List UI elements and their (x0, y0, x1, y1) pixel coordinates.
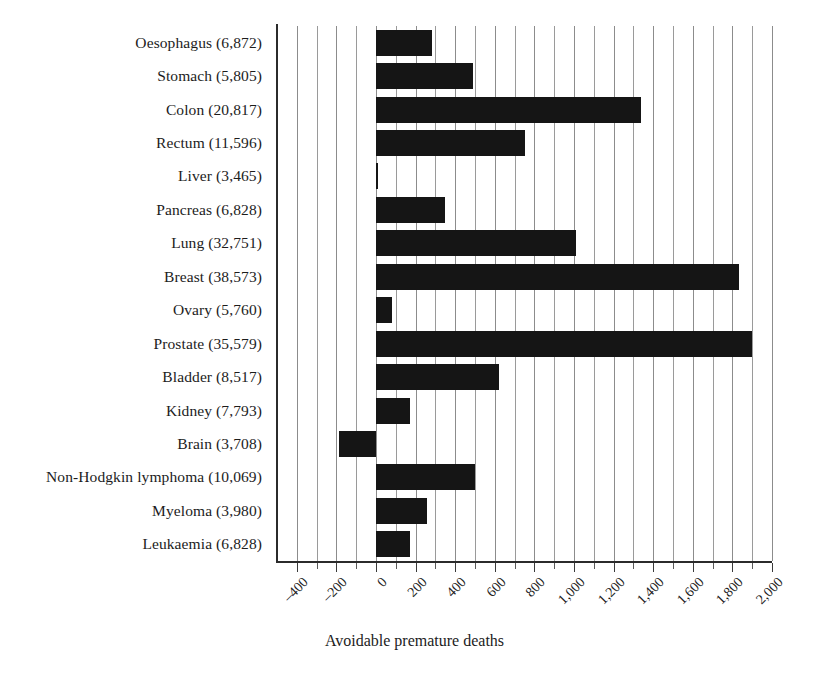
category-axis: Oesophagus (6,872)Stomach (5,805)Colon (… (0, 26, 270, 561)
bar (376, 498, 427, 524)
category-label: Leukaemia (6,828) (0, 536, 262, 552)
category-label: Bladder (8,517) (0, 369, 262, 385)
category-label: Rectum (11,596) (0, 135, 262, 151)
tick-mark (416, 563, 417, 572)
tick-mark (297, 563, 298, 572)
tick-mark (614, 563, 615, 572)
category-label: Non-Hodgkin lymphoma (10,069) (0, 469, 262, 485)
bar (376, 130, 525, 156)
tick-mark (376, 563, 377, 572)
tick-mark (653, 563, 654, 572)
bars-layer (277, 26, 772, 561)
bar (376, 30, 432, 56)
category-label: Liver (3,465) (0, 168, 262, 184)
bar (376, 264, 739, 290)
category-label: Lung (32,751) (0, 235, 262, 251)
category-label: Brain (3,708) (0, 436, 262, 452)
tick-label: 2,000 (776, 553, 808, 585)
bar (376, 364, 499, 390)
tick-mark (534, 563, 535, 572)
gridline (772, 26, 773, 561)
bar (376, 331, 752, 357)
tick-mark (455, 563, 456, 572)
tick-mark (396, 563, 397, 569)
category-label: Colon (20,817) (0, 102, 262, 118)
bar (376, 63, 473, 89)
x-axis-title: Avoidable premature deaths (0, 632, 829, 650)
tick-mark (574, 563, 575, 572)
tick-mark (693, 563, 694, 572)
bar (376, 97, 641, 123)
x-axis-tick-labels: –400–20002004006008001,0001,2001,4001,60… (277, 575, 772, 625)
bar (376, 531, 410, 557)
category-label: Ovary (5,760) (0, 302, 262, 318)
plot-area (277, 26, 772, 561)
tick-mark (495, 563, 496, 572)
category-label: Stomach (5,805) (0, 68, 262, 84)
category-label: Kidney (7,793) (0, 403, 262, 419)
category-label: Breast (38,573) (0, 269, 262, 285)
bar (376, 197, 445, 223)
bar (376, 163, 378, 189)
category-label: Myeloma (3,980) (0, 503, 262, 519)
bar (376, 297, 392, 323)
category-label: Prostate (35,579) (0, 336, 262, 352)
tick-mark (772, 563, 773, 572)
bar (376, 230, 576, 256)
bar (339, 431, 376, 457)
category-label: Pancreas (6,828) (0, 202, 262, 218)
bar (376, 398, 410, 424)
tick-mark (336, 563, 337, 572)
avoidable-premature-deaths-bar-chart: Oesophagus (6,872)Stomach (5,805)Colon (… (0, 0, 829, 676)
tick-mark (732, 563, 733, 572)
category-label: Oesophagus (6,872) (0, 35, 262, 51)
bar (376, 464, 475, 490)
